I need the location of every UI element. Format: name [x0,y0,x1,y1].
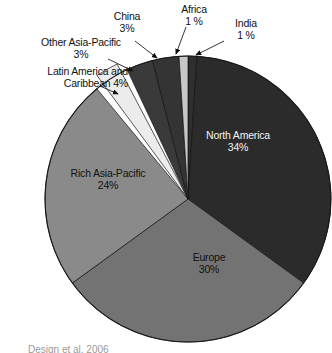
label-india-name: India [235,17,257,29]
label-north-america-pct: 34% [190,142,286,154]
label-europe-name: Europe [193,251,226,263]
leader-line-africa [176,27,186,54]
label-china-pct: 3% [96,23,158,35]
label-latin-america-name: Latin America and [47,65,128,77]
figure-caption: Design et al. 2006 [28,344,109,353]
label-africa: Africa 1 % [166,4,222,28]
label-china-name: China [114,10,140,22]
label-north-america-name: North America [206,129,270,141]
label-other-asia-pacific-name: Other Asia-Pacific [41,36,121,48]
label-india: India 1 % [220,18,272,42]
label-africa-name: Africa [181,3,207,15]
label-europe: Europe 30% [170,252,248,276]
label-china: China 3% [96,11,158,35]
label-other-asia-pacific-pct: 3% [6,49,156,61]
leader-line-india [196,41,224,55]
label-north-america: North America 34% [190,130,286,154]
label-india-pct: 1 % [220,30,272,42]
label-rich-asia-pacific-pct: 24% [52,180,164,192]
label-europe-pct: 30% [170,264,248,276]
label-latin-america-pct: Caribbean 4% [2,78,128,90]
label-other-asia-pacific: Other Asia-Pacific 3% [6,37,156,61]
label-africa-pct: 1 % [166,16,222,28]
label-rich-asia-pacific: Rich Asia-Pacific 24% [52,168,164,192]
label-rich-asia-pacific-name: Rich Asia-Pacific [71,167,146,179]
label-latin-america-caribbean: Latin America and Caribbean 4% [2,66,128,90]
pie-chart-figure: Other Asia-Pacific 3% China 3% Africa 1 … [0,0,332,353]
